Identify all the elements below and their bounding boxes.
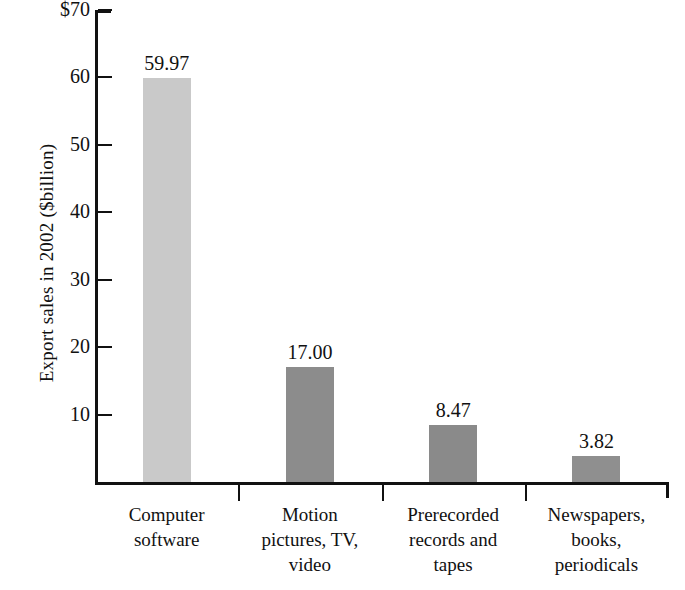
bar-value-label-3: 8.47: [436, 399, 471, 421]
category-label-line: Prerecorded: [382, 502, 525, 527]
category-label-line: tapes: [382, 552, 525, 577]
category-label-line: Computer: [95, 502, 238, 527]
category-separator-1: [238, 485, 240, 501]
bars-layer: 59.9717.008.473.82: [0, 0, 685, 482]
bar-2[interactable]: 17.00: [286, 367, 334, 482]
bar-rect-2: [286, 367, 334, 482]
bar-3[interactable]: 8.47: [429, 425, 477, 482]
category-label-4: Newspapers,books,periodicals: [525, 502, 668, 577]
bar-value-label-2: 17.00: [287, 341, 332, 363]
bar-rect-3: [429, 425, 477, 482]
bar-4[interactable]: 3.82: [572, 456, 620, 482]
category-label-line: Newspapers,: [525, 502, 668, 527]
x-axis-right-cap: [666, 482, 669, 498]
category-label-line: software: [95, 527, 238, 552]
category-label-line: video: [238, 552, 381, 577]
category-separator-2: [382, 485, 384, 501]
category-label-3: Prerecordedrecords andtapes: [382, 502, 525, 577]
category-label-line: pictures, TV,: [238, 527, 381, 552]
category-separator-3: [525, 485, 527, 501]
category-label-2: Motionpictures, TV,video: [238, 502, 381, 577]
category-label-1: Computersoftware: [95, 502, 238, 552]
bar-chart: Export sales in 2002 ($billion) $7060504…: [0, 0, 685, 590]
bar-rect-1: [143, 78, 191, 482]
category-label-line: books,: [525, 527, 668, 552]
category-label-line: records and: [382, 527, 525, 552]
bar-rect-4: [572, 456, 620, 482]
category-label-line: periodicals: [525, 552, 668, 577]
bar-1[interactable]: 59.97: [143, 78, 191, 482]
bar-value-label-4: 3.82: [579, 430, 614, 452]
category-label-line: Motion: [238, 502, 381, 527]
bar-value-label-1: 59.97: [144, 52, 189, 74]
